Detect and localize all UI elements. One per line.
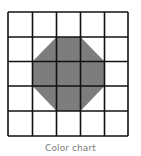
color-chart-figure — [0, 0, 141, 156]
figure-caption: Color chart — [0, 143, 141, 153]
